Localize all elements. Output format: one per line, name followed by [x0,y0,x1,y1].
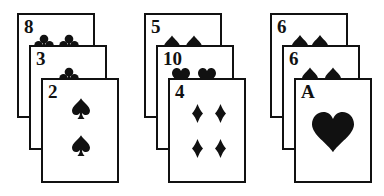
card-ace-hearts[interactable]: A [294,78,372,183]
diamond-icon [215,139,226,158]
spade-icon [72,98,90,120]
card-2-spades[interactable]: 2 [41,78,119,183]
card-group-2: 5 10 4 [127,0,257,196]
diamond-icon [192,139,203,158]
card-4-diamonds[interactable]: 4 [168,78,246,183]
card-rank: 8 [24,17,34,37]
card-rank: 2 [48,82,58,102]
card-rank: 10 [163,49,182,69]
card-rank: 6 [289,49,299,69]
card-rank: A [301,82,315,102]
card-rank: 5 [151,17,161,37]
card-group-1: 8 3 2 [0,0,130,196]
card-rank: 3 [36,49,46,69]
diamond-icon [192,104,203,123]
diamond-icon [215,104,226,123]
card-rank: 4 [175,82,185,102]
card-rank: 6 [277,17,287,37]
heart-icon [312,112,354,154]
spade-icon [72,135,90,157]
card-group-3: 6 6 A [253,0,383,196]
